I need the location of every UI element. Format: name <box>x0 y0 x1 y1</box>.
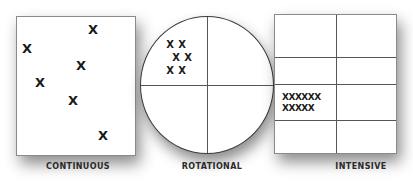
continuous-mark: X <box>22 42 32 55</box>
intensive-label: INTENSIVE <box>335 162 386 171</box>
rotational-mark: X <box>184 53 192 63</box>
intensive-mark-row: XXXXXX <box>282 93 321 102</box>
intensive-mark-row: XXXXX <box>282 104 314 113</box>
continuous-mark: X <box>98 129 108 142</box>
continuous-mark: X <box>68 94 78 107</box>
continuous-mark: X <box>76 59 86 72</box>
intensive-row-divider <box>275 120 396 121</box>
continuous-mark: X <box>88 23 98 36</box>
rotational-label: ROTATIONAL <box>182 162 243 171</box>
rotational-mark: X <box>178 66 186 76</box>
intensive-row-divider <box>275 84 396 85</box>
continuous-mark: X <box>35 76 45 89</box>
continuous-label: CONTINUOUS <box>46 162 110 171</box>
rotational-mark: X <box>178 40 186 50</box>
rotational-panel <box>140 16 274 154</box>
rotational-mark: X <box>166 40 174 50</box>
intensive-panel <box>274 14 397 154</box>
rotational-mark: X <box>172 53 180 63</box>
intensive-row-divider <box>275 57 396 58</box>
grazing-patterns-diagram: X X X X X X CONTINUOUS X X X X X X ROTAT… <box>0 0 413 192</box>
rotational-mark: X <box>166 66 174 76</box>
rotational-horizontal-divider <box>141 85 274 86</box>
